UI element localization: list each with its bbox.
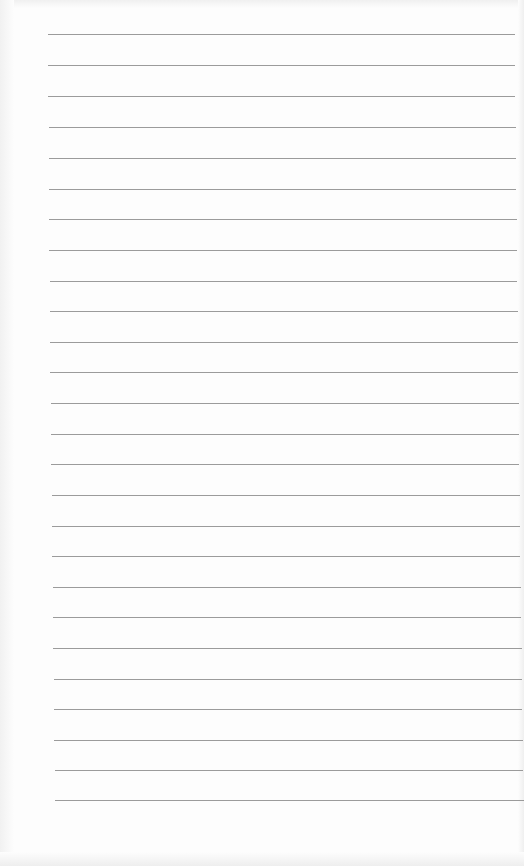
- lined-paper-page: [0, 0, 524, 866]
- ruled-line: [54, 709, 522, 710]
- ruled-line: [51, 434, 519, 435]
- ruled-line: [50, 372, 518, 373]
- scan-edge-top: [0, 0, 524, 8]
- ruled-line: [53, 617, 521, 618]
- ruled-line: [52, 526, 520, 527]
- ruled-line: [54, 679, 522, 680]
- ruled-line: [49, 127, 516, 128]
- ruled-line: [48, 34, 515, 35]
- ruled-line: [52, 495, 520, 496]
- ruled-line: [51, 403, 519, 404]
- ruled-line: [51, 464, 519, 465]
- ruled-line: [50, 311, 518, 312]
- ruled-line: [48, 65, 515, 66]
- ruled-line: [49, 158, 516, 159]
- ruled-line: [52, 556, 520, 557]
- ruled-line: [48, 96, 515, 97]
- ruled-line: [53, 648, 522, 649]
- ruled-line: [55, 800, 524, 801]
- scan-edge-left: [0, 0, 14, 866]
- ruled-line: [49, 219, 517, 220]
- ruled-line: [49, 250, 517, 251]
- ruled-line: [50, 281, 517, 282]
- ruled-line: [53, 587, 521, 588]
- ruled-line: [49, 189, 516, 190]
- ruled-line: [55, 770, 523, 771]
- scan-edge-right: [518, 0, 524, 866]
- ruled-line: [50, 342, 518, 343]
- scan-edge-bottom: [0, 852, 524, 866]
- ruled-line: [54, 740, 523, 741]
